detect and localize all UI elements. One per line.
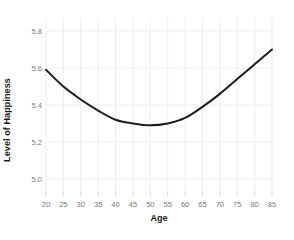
y-tick-label: 5.4 [22, 101, 42, 110]
x-tick-label: 85 [268, 200, 276, 209]
y-tick-label: 5.8 [22, 26, 42, 35]
x-axis-title: Age [46, 213, 272, 223]
x-tick-label: 30 [77, 200, 85, 209]
x-tick-label: 20 [42, 200, 50, 209]
x-axis-tickmarks [46, 192, 272, 196]
x-tick-label: 75 [233, 200, 241, 209]
x-tick-label: 65 [198, 200, 206, 209]
happiness-vs-age-chart: Level of Happiness 5.05.25.45.65.8 Age 2… [0, 0, 294, 240]
y-tick-label: 5.2 [22, 138, 42, 147]
horizontal-gridlines [46, 31, 272, 179]
happiness-curve [46, 49, 272, 125]
y-axis-title: Level of Happiness [0, 0, 14, 240]
x-tick-label: 50 [146, 200, 154, 209]
y-tick-label: 5.0 [22, 175, 42, 184]
x-tick-label: 40 [111, 200, 119, 209]
x-tick-label: 70 [216, 200, 224, 209]
x-tick-label: 35 [94, 200, 102, 209]
plot-area [46, 18, 272, 192]
x-tick-label: 55 [164, 200, 172, 209]
plot-canvas [46, 18, 272, 192]
x-tick-label: 45 [129, 200, 137, 209]
x-tick-label: 60 [181, 200, 189, 209]
y-axis-tick-labels: 5.05.25.45.65.8 [18, 0, 42, 240]
x-tick-label: 80 [250, 200, 258, 209]
x-tick-label: 25 [59, 200, 67, 209]
y-tick-label: 5.6 [22, 63, 42, 72]
